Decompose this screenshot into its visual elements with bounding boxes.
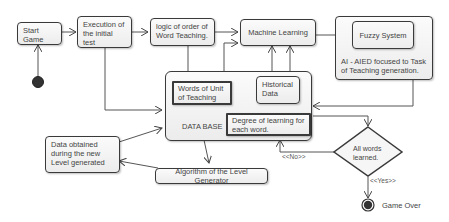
historical-data-node: Historical Data <box>256 76 300 104</box>
edge-label-no: <<No>> <box>282 153 306 160</box>
machine-learning-node: Machine Learning <box>240 19 316 46</box>
machine-learning-label: Machine Learning <box>248 28 308 37</box>
database-label: DATA BASE <box>182 122 223 131</box>
execution-initial-test-node: Execution of the initial test <box>77 16 132 48</box>
decision-label: All words learned. <box>353 144 385 162</box>
logic-order-node: logic of order of Word Teaching. <box>150 18 215 46</box>
start-game-label: Start Game <box>23 26 43 44</box>
data-obtained-label: Data obtained during the new Level gener… <box>51 140 105 167</box>
ai-aied-label: AI - AIED focused to Task of Teaching ge… <box>341 57 426 75</box>
degree-learning-node: Degree of learning for each word. <box>226 113 311 136</box>
algorithm-level-generator-label: Algorithm of the Level Generator <box>160 167 263 185</box>
algorithm-level-generator-node: Algorithm of the Level Generator <box>155 168 268 184</box>
fuzzy-system-node: Fuzzy System <box>352 21 414 49</box>
edge-label-yes: <<Yes>> <box>370 177 396 184</box>
logic-order-label: logic of order of Word Teaching. <box>156 22 208 40</box>
execution-initial-test-label: Execution of the initial test <box>83 20 124 47</box>
game-over-label: Game Over <box>382 201 421 210</box>
start-game-node: Start Game <box>17 22 62 45</box>
historical-data-label: Historical Data <box>262 80 293 98</box>
fuzzy-system-label: Fuzzy System <box>359 31 406 40</box>
data-obtained-node: Data obtained during the new Level gener… <box>45 136 120 173</box>
words-unit-label: Words of Unit of Teaching <box>178 84 223 102</box>
words-unit-node: Words of Unit of Teaching <box>172 81 232 105</box>
degree-learning-label: Degree of learning for each word. <box>232 116 305 134</box>
